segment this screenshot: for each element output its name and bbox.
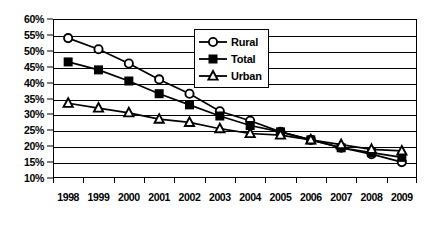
legend-marker-open-triangle-icon <box>198 69 228 83</box>
x-tick-mark <box>114 178 115 183</box>
data-point <box>185 90 193 98</box>
y-tick-label: 10% <box>24 172 44 184</box>
x-tick-mark <box>83 178 84 183</box>
legend-marker-open-circle-icon <box>198 35 228 49</box>
y-tick-label: 60% <box>24 13 44 25</box>
x-tick-label: 2005 <box>270 191 292 203</box>
x-tick-mark <box>265 178 266 183</box>
line-chart: 60%55%50%45%40%35%30%25%20%15%10% 199819… <box>0 0 433 228</box>
x-tick-label: 2002 <box>179 191 201 203</box>
legend-label: Urban <box>231 70 262 82</box>
x-tick-mark <box>205 178 206 183</box>
data-point <box>367 144 376 153</box>
data-point <box>95 66 103 74</box>
data-point <box>337 140 346 149</box>
y-axis: 60%55%50%45%40%35%30%25%20%15%10% <box>0 0 53 200</box>
y-tick-label: 40% <box>24 77 44 89</box>
x-tick-label: 2003 <box>209 191 231 203</box>
y-tick-label: 25% <box>24 124 44 136</box>
data-point <box>186 101 194 109</box>
data-point <box>124 108 133 117</box>
data-point <box>64 58 72 66</box>
x-tick-mark <box>53 178 54 183</box>
y-tick-label: 55% <box>24 29 44 41</box>
y-tick-label: 50% <box>24 45 44 57</box>
data-point <box>125 77 133 85</box>
x-tick-label: 2000 <box>118 191 140 203</box>
x-tick-label: 2004 <box>239 191 261 203</box>
y-tick-label: 20% <box>24 140 44 152</box>
x-tick-mark <box>356 178 357 183</box>
x-tick-label: 1998 <box>57 191 79 203</box>
data-point <box>155 75 163 83</box>
y-tick-label: 35% <box>24 93 44 105</box>
legend-item-urban[interactable]: Urban <box>198 67 262 84</box>
data-point <box>94 45 102 53</box>
x-tick-label: 2007 <box>330 191 352 203</box>
data-point <box>185 117 194 126</box>
x-tick-label: 2006 <box>300 191 322 203</box>
chart-legend: RuralTotalUrban <box>194 29 269 88</box>
data-point <box>215 124 224 133</box>
y-tick-label: 45% <box>24 61 44 73</box>
data-point <box>125 59 133 67</box>
legend-label: Rural <box>231 36 258 48</box>
series-urban <box>64 98 407 154</box>
data-point <box>94 103 103 112</box>
series-line <box>68 103 402 151</box>
y-tick-label: 15% <box>24 156 44 168</box>
data-point <box>155 90 163 98</box>
x-tick-mark <box>235 178 236 183</box>
x-tick-label: 1999 <box>88 191 110 203</box>
data-point <box>397 146 406 155</box>
x-tick-mark <box>387 178 388 183</box>
x-tick-mark <box>326 178 327 183</box>
data-point <box>216 112 224 120</box>
x-tick-label: 2001 <box>148 191 170 203</box>
x-tick-label: 2008 <box>361 191 383 203</box>
x-tick-mark <box>144 178 145 183</box>
data-point <box>64 34 72 42</box>
x-tick-mark <box>296 178 297 183</box>
data-point <box>155 114 164 123</box>
y-tick-label: 30% <box>24 108 44 120</box>
legend-item-total[interactable]: Total <box>198 50 262 67</box>
x-tick-mark <box>416 178 417 183</box>
x-axis: 1998199920002001200220032004200520062007… <box>53 178 417 224</box>
data-point <box>64 98 73 107</box>
x-tick-label: 2009 <box>391 191 413 203</box>
legend-label: Total <box>231 53 255 65</box>
legend-item-rural[interactable]: Rural <box>198 33 262 50</box>
legend-marker-filled-square-icon <box>198 52 228 66</box>
x-tick-mark <box>174 178 175 183</box>
